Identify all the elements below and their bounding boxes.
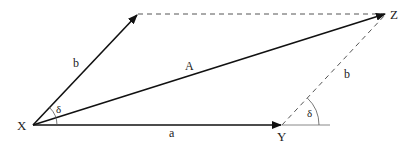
vector-label-A: A — [185, 59, 194, 73]
vector-label-a: a — [169, 126, 175, 140]
point-label-z: Z — [390, 7, 398, 22]
angle-label-x: δ — [56, 103, 61, 115]
point-label-y: Y — [277, 129, 287, 144]
diagram-svg: X Y Z A b b a δ δ — [0, 0, 405, 150]
vector-diagram: X Y Z A b b a δ δ — [0, 0, 405, 150]
vector-label-b-translated: b — [344, 67, 350, 81]
angle-label-y: δ — [307, 107, 312, 119]
point-label-x: X — [17, 118, 27, 133]
vector-label-b: b — [73, 56, 79, 70]
